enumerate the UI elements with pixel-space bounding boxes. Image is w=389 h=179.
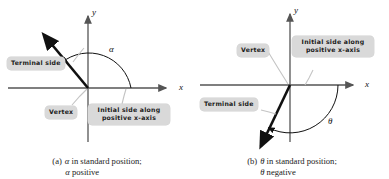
callout-terminal-side: Terminal side — [200, 98, 258, 111]
panel-b-diagram — [195, 0, 389, 152]
leader-vertex — [267, 50, 288, 84]
leader-terminal-side — [261, 110, 276, 114]
callout-terminal-side-text: Terminal side — [11, 59, 61, 66]
caption-b-marker: (b) — [247, 156, 257, 166]
callout-initial-side: Initial side along positive x-axis — [88, 104, 170, 125]
callout-initial-side-line1: Initial side along — [294, 38, 372, 46]
caption-b-line1: in standard position; — [264, 156, 336, 166]
terminal-side-ray — [261, 85, 290, 146]
caption-b-line2: negative — [264, 167, 295, 177]
caption-a-line2: positive — [70, 167, 99, 177]
leader-initial-side — [305, 70, 313, 85]
callout-vertex: Vertex — [237, 44, 269, 57]
caption-a-marker: (a) — [52, 156, 62, 166]
callout-initial-side-line2: positive x-axis — [294, 46, 372, 54]
leader-initial-side — [122, 89, 126, 104]
callout-terminal-side: Terminal side — [7, 57, 65, 70]
callout-vertex-text: Vertex — [241, 46, 265, 53]
callout-initial-side-line1: Initial side along — [90, 106, 168, 114]
callout-vertex: Vertex — [45, 106, 77, 119]
callout-vertex-text: Vertex — [49, 108, 73, 115]
callout-terminal-side-text: Terminal side — [204, 100, 254, 107]
y-axis-label: y — [92, 7, 96, 17]
panel-theta-negative: x y θ Vertex Initial side along positive… — [195, 0, 389, 179]
panel-alpha-positive: x y α Terminal side Vertex Initial side … — [0, 0, 194, 179]
angles-standard-position-figure: x y α Terminal side Vertex Initial side … — [0, 0, 389, 179]
callout-initial-side-line2: positive x-axis — [90, 114, 168, 122]
panel-a-diagram — [0, 0, 194, 152]
callout-initial-side: Initial side along positive x-axis — [292, 36, 374, 57]
leader-vertex — [72, 89, 87, 105]
caption-a-line1: in standard position; — [69, 156, 141, 166]
angle-symbol-theta: θ — [328, 116, 332, 126]
y-axis-label: y — [294, 5, 298, 15]
x-axis-label: x — [365, 79, 369, 89]
x-axis-label: x — [179, 82, 183, 92]
caption-panel-b: (b)θ in standard position; θ negative — [195, 156, 389, 177]
angle-symbol-alpha: α — [109, 44, 114, 54]
caption-panel-a: (a)α in standard position; α positive — [0, 156, 194, 177]
